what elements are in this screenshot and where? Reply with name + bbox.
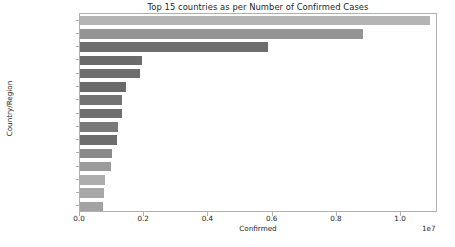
- bar-fill: [80, 56, 142, 66]
- bar-fill: [80, 175, 105, 185]
- y-tick-mark: [76, 46, 80, 47]
- x-axis-offset-text: 1e7: [422, 224, 436, 233]
- y-tick-mark: [76, 86, 80, 87]
- x-tick-mark: [207, 212, 208, 216]
- y-tick-mark: [76, 205, 80, 206]
- bar-fill: [80, 16, 430, 26]
- bar-brazil: [80, 42, 436, 52]
- y-tick-mark: [76, 192, 80, 193]
- y-tick-mark: [76, 33, 80, 34]
- y-axis-label: Country/Region: [5, 59, 14, 159]
- bar-south-africa: [80, 202, 436, 212]
- bar-fill: [80, 82, 126, 92]
- bar-france: [80, 56, 436, 66]
- y-tick-mark: [76, 166, 80, 167]
- bar-argentina: [80, 109, 436, 119]
- bar-germany: [80, 175, 436, 185]
- bar-fill: [80, 109, 122, 119]
- bar-us: [80, 16, 436, 26]
- y-tick-mark: [76, 99, 80, 100]
- bar-spain: [80, 82, 436, 92]
- bar-united-kingdom: [80, 95, 436, 105]
- x-axis-label: Confirmed: [79, 224, 437, 233]
- y-tick-mark: [76, 59, 80, 60]
- bar-fill: [80, 29, 363, 39]
- bar-peru: [80, 162, 436, 172]
- y-tick-mark: [76, 126, 80, 127]
- bar-italy: [80, 135, 436, 145]
- bar-fill: [80, 149, 112, 159]
- y-tick-mark: [76, 113, 80, 114]
- bar-fill: [80, 42, 268, 52]
- bar-mexico: [80, 149, 436, 159]
- bar-series: [80, 14, 436, 211]
- bar-iran: [80, 188, 436, 198]
- bar-russia: [80, 69, 436, 79]
- bar-india: [80, 29, 436, 39]
- x-tick-mark: [143, 212, 144, 216]
- y-tick-mark: [76, 73, 80, 74]
- bar-fill: [80, 202, 103, 212]
- y-tick-mark: [76, 152, 80, 153]
- bar-fill: [80, 162, 111, 172]
- bar-fill: [80, 188, 104, 198]
- bar-fill: [80, 122, 118, 132]
- figure: Top 15 countries as per Number of Confir…: [0, 0, 455, 247]
- y-tick-mark: [76, 179, 80, 180]
- plot-area: [79, 13, 437, 212]
- y-tick-mark: [76, 139, 80, 140]
- bar-fill: [80, 135, 117, 145]
- x-tick-mark: [272, 212, 273, 216]
- bar-colombia: [80, 122, 436, 132]
- bar-fill: [80, 95, 122, 105]
- x-tick-mark: [79, 212, 80, 216]
- y-tick-mark: [76, 20, 80, 21]
- bar-fill: [80, 69, 140, 79]
- x-tick-mark: [336, 212, 337, 216]
- chart-title: Top 15 countries as per Number of Confir…: [79, 2, 437, 12]
- x-tick-mark: [400, 212, 401, 216]
